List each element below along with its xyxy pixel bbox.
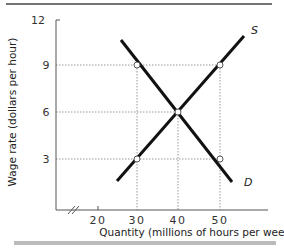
bottom-rule (14, 241, 276, 245)
y-tick-3: 3 (43, 153, 50, 166)
y-tick-6: 6 (43, 106, 50, 119)
demand-label: D (244, 176, 252, 189)
y-tick-12: 12 (31, 14, 45, 27)
axes (56, 20, 268, 210)
labor-market-chart: 12 9 6 3 20 30 40 50 S D Wage rate (doll… (0, 0, 284, 251)
supply-label: S (251, 24, 258, 37)
y-axis-title: Wage rate (dollars per hour) (6, 38, 18, 187)
x-axis-title: Quantity (millions of hours per week) (99, 226, 284, 238)
y-tick-9: 9 (43, 59, 50, 72)
